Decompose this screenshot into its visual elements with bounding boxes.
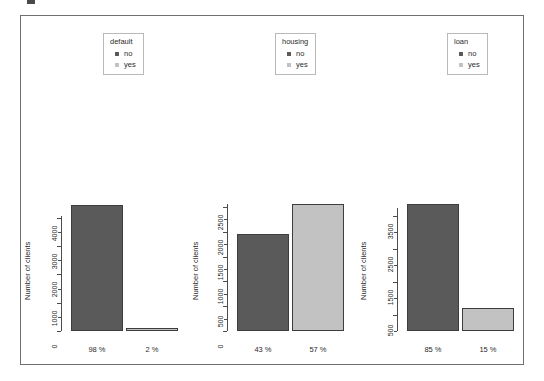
y-axis-title-housing: Number of clients bbox=[191, 242, 200, 300]
x-axis-tick-label: 85 % bbox=[407, 345, 459, 354]
x-axis-tick-label: 57 % bbox=[292, 345, 344, 354]
x-axis-tick-label: 15 % bbox=[462, 345, 514, 354]
y-axis-tick-label: 2000 bbox=[50, 275, 59, 305]
y-axis-tick-label: 3500 bbox=[386, 216, 395, 246]
y-axis-title-default: Number of clients bbox=[23, 242, 32, 300]
bar bbox=[71, 205, 123, 331]
y-axis-tick-label: 1000 bbox=[50, 303, 59, 333]
y-axis-title-loan: Number of clients bbox=[359, 242, 368, 300]
x-axis-tick-label: 2 % bbox=[126, 345, 178, 354]
y-axis-tick-label: 0 bbox=[50, 332, 59, 362]
y-axis-line bbox=[397, 208, 398, 331]
figure-frame: default no yes 0100020003000400098 %2 % … bbox=[20, 15, 524, 365]
bar bbox=[462, 308, 514, 331]
chart-panel-default: default no yes 0100020003000400098 %2 % bbox=[21, 16, 189, 364]
top-edge-artifact bbox=[27, 0, 35, 4]
plot-area-default: 0100020003000400098 %2 % bbox=[21, 16, 189, 364]
plot-area-housing: 0500100015002000250043 %57 % bbox=[189, 16, 357, 364]
bar bbox=[126, 328, 178, 331]
x-axis-tick-label: 43 % bbox=[237, 345, 289, 354]
x-axis-tick-label: 98 % bbox=[71, 345, 123, 354]
y-axis-tick-label: 2500 bbox=[216, 207, 225, 237]
bar bbox=[237, 234, 289, 331]
y-axis-tick-label: 1500 bbox=[386, 282, 395, 312]
y-axis-tick-label: 3000 bbox=[50, 247, 59, 277]
y-axis-tick-label: 2500 bbox=[386, 249, 395, 279]
bar bbox=[407, 204, 459, 331]
bar bbox=[292, 204, 344, 331]
plot-area-loan: 50015002500350085 %15 % bbox=[357, 16, 525, 364]
y-axis-line bbox=[227, 204, 228, 331]
y-axis-line bbox=[61, 216, 62, 331]
chart-panel-housing: housing no yes 0500100015002000250043 %5… bbox=[189, 16, 357, 364]
y-axis-tick-label: 500 bbox=[386, 315, 395, 345]
y-axis-tick-label: 4000 bbox=[50, 218, 59, 248]
chart-panel-loan: loan no yes 50015002500350085 %15 % bbox=[357, 16, 525, 364]
